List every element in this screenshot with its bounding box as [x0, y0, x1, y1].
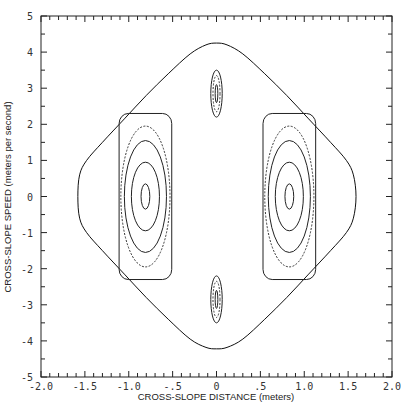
phase-portrait-chart: -2.0-1.5-1.0-.50.51.01.52.0 -5-4-3-2-101… — [0, 0, 411, 417]
y-axis-title: CROSS-SLOPE SPEED (meters per second) — [2, 101, 13, 292]
island-orbit — [124, 141, 166, 253]
island-orbit — [121, 126, 170, 267]
cropped-caption-fragment — [60, 402, 400, 412]
island-orbit — [213, 76, 220, 112]
island-orbit — [215, 85, 218, 103]
island-orbit — [265, 126, 314, 267]
x-tick-label: 1.5 — [339, 381, 357, 392]
island-orbit — [213, 281, 220, 317]
y-tick-label: -1 — [21, 228, 33, 239]
x-tick-label: 1.0 — [295, 381, 313, 392]
y-tick-label: 1 — [27, 155, 33, 166]
x-axis-title: CROSS-SLOPE DISTANCE (meters) — [138, 391, 295, 402]
y-tick-label: -3 — [21, 300, 33, 311]
y-tick-label: 4 — [27, 47, 33, 58]
y-tick-label: 5 — [27, 11, 33, 22]
y-tick-label: 2 — [27, 119, 33, 130]
island-orbit — [268, 141, 310, 253]
y-tick-label: -2 — [21, 264, 33, 275]
island-orbit — [119, 113, 172, 279]
right-island — [263, 113, 316, 279]
island-orbit — [275, 162, 303, 231]
x-tick-label: -1.5 — [73, 381, 97, 392]
island-orbit — [263, 113, 316, 279]
island-orbit — [131, 162, 159, 231]
y-tick-label: -4 — [21, 336, 33, 347]
island-orbit — [141, 184, 150, 209]
y-tick-label: 0 — [27, 192, 33, 203]
bottom-island — [211, 276, 222, 323]
island-orbit — [215, 290, 218, 308]
y-tick-label: -5 — [21, 372, 33, 383]
plot-area — [78, 43, 356, 349]
island-orbit — [285, 184, 294, 209]
left-island — [119, 113, 172, 279]
top-island — [211, 70, 222, 117]
y-tick-label: 3 — [27, 83, 33, 94]
x-tick-label: 2.0 — [383, 381, 401, 392]
x-axis-ticks: -2.0-1.5-1.0-.50.51.01.52.0 — [29, 16, 401, 392]
y-axis-ticks: -5-4-3-2-1012345 — [21, 11, 392, 383]
